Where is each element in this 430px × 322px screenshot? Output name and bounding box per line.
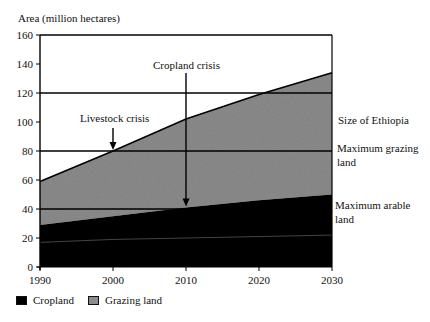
- y-tick-label: 20: [22, 232, 34, 244]
- max-arable-label-1: Maximum arable: [335, 199, 411, 211]
- cropland-swatch-icon: [16, 296, 27, 305]
- chart: Area (million hectares) 0204060801001201…: [0, 0, 430, 322]
- x-tick-label: 2000: [102, 274, 125, 286]
- size-of-ethiopia-label: Size of Ethiopia: [338, 114, 409, 126]
- y-tick-label: 160: [17, 29, 34, 41]
- x-tick-label: 1990: [29, 274, 52, 286]
- max-arable-label-2: land: [335, 213, 354, 225]
- y-axis-label: Area (million hectares): [18, 12, 120, 25]
- y-tick-label: 120: [17, 87, 34, 99]
- x-tick-label: 2020: [248, 274, 271, 286]
- y-tick-label: 40: [22, 203, 34, 215]
- area-chart: Area (million hectares) 0204060801001201…: [0, 0, 430, 290]
- legend: Cropland Grazing land: [16, 294, 176, 306]
- max-grazing-label-1: Maximum grazing: [337, 142, 419, 154]
- y-tick-label: 60: [22, 174, 34, 186]
- y-tick-label: 80: [22, 145, 34, 157]
- y-tick-label: 140: [17, 58, 34, 70]
- x-tick-label: 2010: [175, 274, 198, 286]
- max-grazing-label-2: land: [337, 156, 356, 168]
- y-tick-label: 100: [17, 116, 34, 128]
- livestock-crisis-label: Livestock crisis: [80, 112, 149, 124]
- legend-item-grazing: Grazing land: [88, 294, 162, 306]
- legend-item-cropland: Cropland: [16, 294, 74, 306]
- x-tick-label: 2030: [321, 274, 344, 286]
- grazing-swatch-icon: [88, 296, 99, 305]
- livestock-crisis-arrow-icon-head: [110, 142, 117, 150]
- legend-label-cropland: Cropland: [33, 294, 74, 306]
- cropland-crisis-label: Cropland crisis: [153, 59, 220, 71]
- y-tick-label: 0: [28, 261, 34, 273]
- legend-label-grazing: Grazing land: [105, 294, 162, 306]
